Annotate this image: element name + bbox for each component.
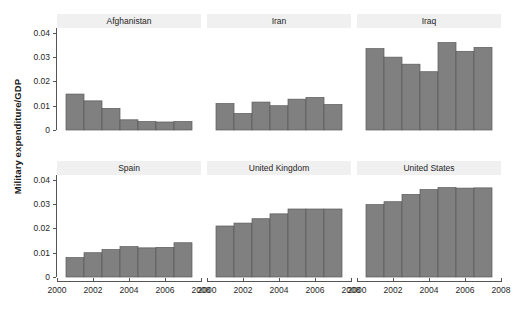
bar xyxy=(402,194,420,277)
x-tick-mark xyxy=(243,278,244,282)
y-axis-line xyxy=(56,28,57,130)
bar xyxy=(366,49,384,130)
bar xyxy=(474,47,492,130)
bar xyxy=(402,64,420,130)
x-tick-label: 2004 xyxy=(420,285,439,295)
panel-title-afghanistan: Afghanistan xyxy=(57,14,201,28)
bar xyxy=(138,248,156,277)
y-tick-mark xyxy=(53,130,56,131)
bar xyxy=(288,209,306,277)
x-tick-mark xyxy=(501,278,502,282)
panel-united-kingdom: United Kingdom20002002200420062008 xyxy=(207,161,351,277)
x-tick-label: 2008 xyxy=(492,285,511,295)
x-tick-label: 2004 xyxy=(270,285,289,295)
y-tick-label: 0.03 xyxy=(33,52,50,62)
panel-title-spain: Spain xyxy=(57,161,201,175)
bar xyxy=(174,122,192,131)
bars-svg xyxy=(207,28,351,131)
bar xyxy=(174,243,192,277)
bars-svg xyxy=(357,175,501,278)
x-tick-mark xyxy=(315,278,316,282)
bar xyxy=(252,102,270,130)
x-tick-label: 2006 xyxy=(456,285,475,295)
bar xyxy=(102,108,120,130)
plot-area xyxy=(357,175,501,277)
panel-iraq: Iraq xyxy=(357,14,501,130)
y-tick-label: 0.02 xyxy=(33,223,50,233)
x-tick-mark xyxy=(165,278,166,282)
y-tick-label: 0.04 xyxy=(33,28,50,38)
y-tick-mark xyxy=(53,253,56,254)
x-tick-label: 2000 xyxy=(48,285,67,295)
y-tick-mark xyxy=(53,81,56,82)
bar xyxy=(234,223,252,277)
y-tick-label: 0 xyxy=(45,272,50,282)
bar xyxy=(438,188,456,277)
x-tick-label: 2000 xyxy=(198,285,217,295)
bar xyxy=(102,250,120,277)
x-tick-mark xyxy=(429,278,430,282)
bar xyxy=(216,104,234,130)
x-tick-mark xyxy=(129,278,130,282)
bar xyxy=(270,214,288,277)
bar xyxy=(420,190,438,277)
x-tick-mark xyxy=(57,278,58,282)
x-tick-label: 2006 xyxy=(306,285,325,295)
bar xyxy=(384,202,402,277)
panel-title-united-kingdom: United Kingdom xyxy=(207,161,351,175)
bar xyxy=(234,113,252,130)
panel-afghanistan: Afghanistan00.010.020.030.04 xyxy=(57,14,201,130)
bars-svg xyxy=(57,175,201,278)
panel-title-united-states: United States xyxy=(357,161,501,175)
bar xyxy=(306,97,324,130)
x-tick-label: 2002 xyxy=(84,285,103,295)
x-tick-label: 2000 xyxy=(348,285,367,295)
bar xyxy=(474,188,492,277)
plot-area xyxy=(57,175,201,277)
bar xyxy=(66,94,84,130)
plot-area xyxy=(357,28,501,130)
y-tick-mark xyxy=(53,228,56,229)
x-tick-mark xyxy=(351,278,352,282)
y-tick-label: 0 xyxy=(45,125,50,135)
bar xyxy=(456,188,474,277)
x-tick-label: 2004 xyxy=(120,285,139,295)
x-tick-mark xyxy=(207,278,208,282)
y-axis-line xyxy=(56,175,57,277)
bars-svg xyxy=(207,175,351,278)
x-tick-mark xyxy=(201,278,202,282)
bar xyxy=(456,51,474,130)
y-tick-mark xyxy=(53,180,56,181)
y-tick-mark xyxy=(53,57,56,58)
y-tick-mark xyxy=(53,106,56,107)
bar xyxy=(306,209,324,277)
bar xyxy=(384,57,402,130)
bar xyxy=(216,226,234,277)
bar xyxy=(156,122,174,130)
bar xyxy=(84,253,102,277)
x-tick-mark xyxy=(279,278,280,282)
bar xyxy=(66,258,84,277)
panel-spain: Spain00.010.020.030.04200020022004200620… xyxy=(57,161,201,277)
bar xyxy=(120,120,138,130)
x-tick-mark xyxy=(465,278,466,282)
y-tick-mark xyxy=(53,277,56,278)
bar xyxy=(324,209,342,277)
panel-iran: Iran xyxy=(207,14,351,130)
plot-area xyxy=(207,28,351,130)
y-axis-title: Military expenditure/GDP xyxy=(12,57,23,217)
y-tick-mark xyxy=(53,33,56,34)
x-tick-label: 2002 xyxy=(234,285,253,295)
x-tick-mark xyxy=(93,278,94,282)
y-tick-label: 0.02 xyxy=(33,76,50,86)
bar xyxy=(438,43,456,130)
bar xyxy=(84,101,102,130)
bar xyxy=(324,105,342,131)
y-tick-mark xyxy=(53,204,56,205)
y-tick-label: 0.03 xyxy=(33,199,50,209)
x-tick-label: 2002 xyxy=(384,285,403,295)
x-tick-mark xyxy=(357,278,358,282)
bar xyxy=(420,72,438,130)
plot-area xyxy=(57,28,201,130)
y-tick-label: 0.04 xyxy=(33,175,50,185)
